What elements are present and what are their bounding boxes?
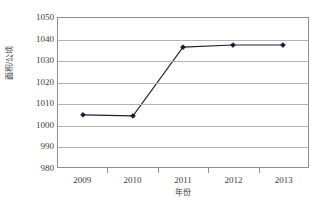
data-point-marker (231, 43, 236, 48)
y-axis-tick-label: 980 (16, 163, 54, 173)
x-axis-tick (259, 168, 260, 173)
gridline (58, 61, 308, 62)
y-axis-tick-label: 990 (16, 141, 54, 151)
gridline (58, 83, 308, 84)
y-axis-tick-label: 1000 (16, 120, 54, 130)
y-axis-tick-labels: 105010401030102010101000990980 (16, 12, 54, 174)
plot-area (57, 17, 309, 168)
x-axis-tick-label: 2010 (111, 174, 155, 186)
x-axis-tick-labels: 20092010201120122013 (45, 174, 321, 188)
y-axis-tick-label: 1040 (16, 34, 54, 44)
x-axis-tick (208, 168, 209, 173)
data-point-marker (81, 112, 86, 117)
y-axis-tick-label: 1020 (16, 77, 54, 87)
x-axis-tick (158, 168, 159, 173)
y-axis-tick-label: 1030 (16, 55, 54, 65)
x-axis-tick-label: 2009 (60, 174, 104, 186)
x-axis-tick-label: 2013 (262, 174, 306, 186)
line-chart: 面积/公顷 105010401030102010101000990980 200… (0, 0, 324, 205)
gridline (58, 147, 308, 148)
x-axis-title: 年份 (57, 187, 309, 199)
series-line (83, 45, 283, 116)
gridline (58, 126, 308, 127)
data-point-marker (281, 43, 286, 48)
gridline (58, 104, 308, 105)
x-axis-tick-label: 2012 (211, 174, 255, 186)
y-axis-title: 面积/公顷 (3, 27, 17, 99)
y-axis-tick-label: 1010 (16, 98, 54, 108)
x-axis-tick-label: 2011 (161, 174, 205, 186)
x-axis-tick (107, 168, 108, 173)
gridline (58, 40, 308, 41)
y-axis-tick-label: 1050 (16, 12, 54, 22)
